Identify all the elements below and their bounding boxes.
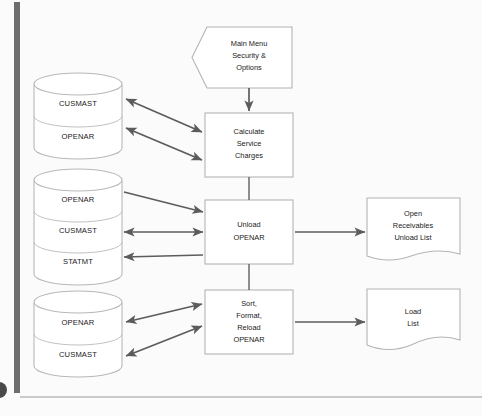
node-unload-openar[interactable]: Unload OPENAR bbox=[205, 200, 293, 264]
node-load-list[interactable]: Load List bbox=[367, 289, 460, 350]
connector-openar-1-calculate bbox=[126, 128, 202, 160]
node-sort-format-reload-openar[interactable]: Sort, Format, Reload OPENAR bbox=[205, 290, 293, 354]
connector-statmt-2-unload bbox=[124, 255, 203, 257]
main-menu-line-2: Security & bbox=[232, 51, 266, 60]
store-group-2-file-3: STATMT bbox=[63, 257, 93, 266]
calculate-line-1: Calculate bbox=[234, 127, 265, 136]
page-left-rail bbox=[14, 2, 20, 393]
store-group-3-cylinder bbox=[34, 291, 122, 377]
sort-line-3: Reload bbox=[237, 323, 260, 332]
diagram-canvas: Main Menu Security & Options Calculate S… bbox=[0, 0, 482, 416]
connector-cusmast-1-calculate bbox=[126, 99, 202, 132]
page-corner-mark bbox=[0, 382, 7, 398]
calculate-line-3: Charges bbox=[235, 151, 263, 160]
flowchart-diagram: Main Menu Security & Options Calculate S… bbox=[0, 0, 482, 416]
load-list-line-1: Load bbox=[405, 307, 421, 316]
unload-list-line-2: Receivables bbox=[393, 221, 434, 230]
store-group-3-file-2: CUSMAST bbox=[59, 350, 97, 359]
unload-list-line-3: Unload List bbox=[395, 233, 432, 242]
node-main-menu[interactable]: Main Menu Security & Options bbox=[192, 27, 292, 88]
sort-line-2: Format, bbox=[236, 311, 261, 320]
node-calculate-service-charges[interactable]: Calculate Service Charges bbox=[205, 113, 293, 177]
node-store-group-2[interactable]: OPENAR CUSMAST STATMT bbox=[34, 169, 122, 285]
sort-line-1: Sort, bbox=[241, 299, 257, 308]
sort-line-4: OPENAR bbox=[233, 335, 264, 344]
unload-line-2: OPENAR bbox=[233, 233, 264, 242]
unload-list-line-1: Open bbox=[404, 209, 422, 218]
node-open-receivables-unload-list[interactable]: Open Receivables Unload List bbox=[367, 198, 460, 260]
node-store-group-3[interactable]: OPENAR CUSMAST bbox=[34, 291, 122, 377]
connector-cusmast-3-sort bbox=[126, 326, 202, 356]
load-list-line-2: List bbox=[407, 319, 419, 328]
main-menu-line-1: Main Menu bbox=[231, 39, 268, 48]
main-menu-line-3: Options bbox=[236, 63, 262, 72]
store-group-3-file-1: OPENAR bbox=[62, 318, 95, 327]
unload-line-1: Unload bbox=[237, 220, 260, 229]
store-group-2-file-2: CUSMAST bbox=[59, 226, 97, 235]
connector-openar-2-unload bbox=[124, 192, 203, 212]
node-store-group-1[interactable]: CUSMAST OPENAR bbox=[34, 73, 122, 159]
store-group-1-file-2: OPENAR bbox=[62, 132, 95, 141]
connector-openar-3-sort bbox=[126, 304, 202, 322]
calculate-line-2: Service bbox=[237, 139, 262, 148]
store-group-2-file-1: OPENAR bbox=[62, 195, 95, 204]
store-group-1-cylinder bbox=[34, 73, 122, 159]
store-group-1-file-1: CUSMAST bbox=[59, 99, 97, 108]
